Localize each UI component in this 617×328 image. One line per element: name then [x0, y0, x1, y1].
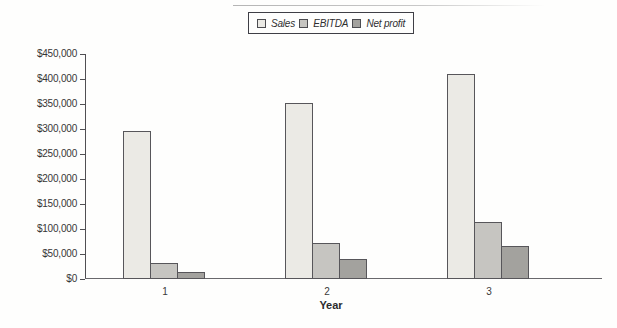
y-tick	[80, 279, 85, 280]
legend-item-net-profit: Net profit	[352, 18, 405, 29]
legend-item-sales: Sales	[257, 18, 295, 29]
bar-net-profit-year-2	[339, 259, 367, 279]
x-category-label-2: 2	[307, 286, 347, 297]
plot-area	[85, 54, 602, 279]
y-tick	[80, 229, 85, 230]
y-tick-label: $400,000	[7, 73, 77, 84]
y-tick-label: $200,000	[7, 173, 77, 184]
chart-legend: SalesEBITDANet profit	[248, 12, 414, 34]
y-tick	[80, 179, 85, 180]
bar-chart-figure: SalesEBITDANet profit $0$50,000$100,000$…	[0, 0, 617, 328]
y-tick-label: $350,000	[7, 98, 77, 109]
bar-ebitda-year-2	[312, 243, 340, 279]
x-category-label-3: 3	[469, 286, 509, 297]
y-tick	[80, 104, 85, 105]
bar-sales-year-3	[447, 74, 475, 279]
x-axis-title: Year	[231, 299, 431, 311]
y-tick-label: $100,000	[7, 223, 77, 234]
scan-artifact-line	[233, 5, 545, 6]
bar-sales-year-1	[123, 131, 151, 279]
bar-ebitda-year-1	[150, 263, 178, 279]
bar-ebitda-year-3	[474, 222, 502, 279]
y-tick-label: $150,000	[7, 198, 77, 209]
y-tick	[80, 54, 85, 55]
legend-label-sales: Sales	[271, 18, 295, 29]
y-tick-label: $300,000	[7, 123, 77, 134]
y-tick	[80, 254, 85, 255]
bar-net-profit-year-3	[501, 246, 529, 279]
legend-label-net-profit: Net profit	[366, 18, 405, 29]
bar-net-profit-year-1	[177, 272, 205, 279]
y-tick-label: $450,000	[7, 48, 77, 59]
y-tick-label: $0	[7, 273, 77, 284]
y-tick	[80, 79, 85, 80]
legend-swatch-net-profit	[352, 19, 361, 28]
y-tick	[80, 129, 85, 130]
legend-swatch-ebitda	[299, 19, 308, 28]
x-category-label-1: 1	[145, 286, 185, 297]
legend-item-ebitda: EBITDA	[299, 18, 348, 29]
y-tick	[80, 204, 85, 205]
legend-label-ebitda: EBITDA	[313, 18, 348, 29]
legend-swatch-sales	[257, 19, 266, 28]
bar-sales-year-2	[285, 103, 313, 279]
y-tick	[80, 154, 85, 155]
y-tick-label: $50,000	[7, 248, 77, 259]
y-axis-line	[85, 54, 86, 279]
y-tick-label: $250,000	[7, 148, 77, 159]
